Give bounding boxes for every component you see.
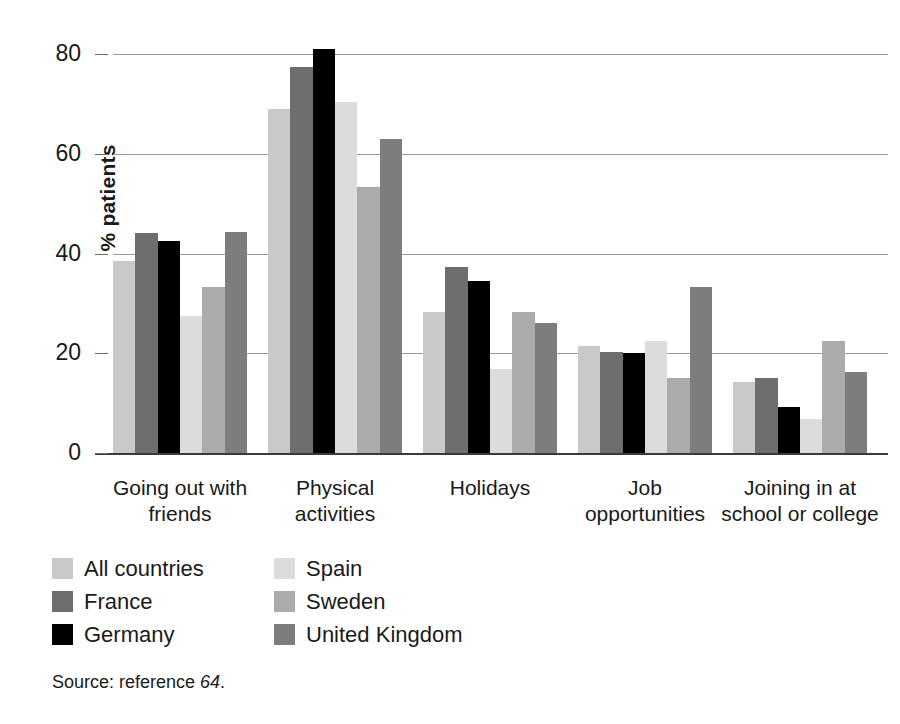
bar-2-5 — [535, 323, 557, 453]
bar-0-1 — [135, 233, 157, 453]
legend-swatch-icon — [274, 624, 295, 645]
bar-4-5 — [845, 372, 867, 453]
source-note-reference: 64 — [200, 672, 220, 692]
bar-1-5 — [380, 139, 402, 453]
legend-item-sweden[interactable]: Sweden — [274, 585, 463, 618]
bar-2-3 — [490, 369, 512, 453]
bar-3-2 — [623, 353, 645, 453]
bar-1-2 — [313, 49, 335, 453]
bar-2-2 — [468, 281, 490, 453]
legend-item-spain[interactable]: Spain — [274, 552, 463, 585]
bar-1-1 — [290, 67, 312, 453]
bar-3-5 — [690, 287, 712, 453]
legend-swatch-icon — [52, 558, 73, 579]
legend-item-france[interactable]: France — [52, 585, 204, 618]
legend-label: Germany — [84, 623, 174, 647]
bar-2-1 — [445, 267, 467, 453]
chart-plot-area: % patients 020406080 Going out withfrien… — [0, 0, 900, 470]
bar-1-4 — [357, 187, 379, 453]
x-axis-label-line: Joining in at — [700, 475, 900, 501]
source-note: Source: reference 64. — [52, 672, 225, 693]
bar-4-0 — [733, 382, 755, 453]
legend-label: Spain — [306, 557, 362, 581]
bar-4-2 — [778, 407, 800, 453]
bar-2-4 — [512, 312, 534, 453]
legend-swatch-icon — [52, 624, 73, 645]
bar-0-4 — [202, 287, 224, 453]
legend-label: United Kingdom — [306, 623, 463, 647]
x-axis-label-line: school or college — [700, 501, 900, 527]
bar-0-2 — [158, 241, 180, 453]
legend-swatch-icon — [274, 558, 295, 579]
x-axis-label-line: activities — [235, 501, 435, 527]
bar-3-3 — [645, 341, 667, 453]
legend-item-all-countries[interactable]: All countries — [52, 552, 204, 585]
legend-label: France — [84, 590, 152, 614]
source-note-prefix: Source: reference — [52, 672, 200, 692]
bar-4-3 — [800, 419, 822, 453]
legend-column-right: SpainSwedenUnited Kingdom — [274, 552, 463, 651]
bar-3-0 — [578, 346, 600, 453]
legend-swatch-icon — [274, 591, 295, 612]
legend-column-left: All countriesFranceGermany — [52, 552, 204, 651]
bar-2-0 — [423, 312, 445, 453]
bar-0-0 — [113, 261, 135, 453]
bar-1-3 — [335, 102, 357, 453]
bar-4-1 — [755, 378, 777, 453]
legend-label: All countries — [84, 557, 204, 581]
bar-1-0 — [268, 109, 290, 453]
bar-0-5 — [225, 232, 247, 453]
legend-item-united-kingdom[interactable]: United Kingdom — [274, 618, 463, 651]
x-axis-label-group-4: Joining in atschool or college — [700, 475, 900, 527]
source-note-suffix: . — [220, 672, 225, 692]
bar-series-layer — [0, 0, 900, 470]
bar-3-1 — [600, 352, 622, 453]
bar-0-3 — [180, 316, 202, 453]
figure-container: % patients 020406080 Going out withfrien… — [0, 0, 900, 724]
legend-label: Sweden — [306, 590, 386, 614]
bar-3-4 — [667, 378, 689, 453]
legend-swatch-icon — [52, 591, 73, 612]
legend-item-germany[interactable]: Germany — [52, 618, 204, 651]
bar-4-4 — [822, 341, 844, 453]
